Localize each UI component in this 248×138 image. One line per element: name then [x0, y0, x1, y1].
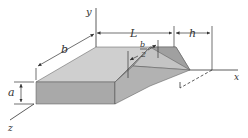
x-axis-label: x: [234, 72, 239, 82]
half-b-denominator: 2: [140, 50, 146, 59]
z-axis-line: [10, 104, 34, 120]
half-b-numerator: b: [140, 40, 145, 49]
a-label: a: [8, 86, 15, 99]
dimension-a: [14, 82, 34, 104]
wedge-side-face: [115, 66, 190, 104]
block-with-wedge-diagram: y x z b L h a b 2: [0, 0, 248, 138]
L-label: L: [129, 27, 137, 40]
b-label: b: [61, 43, 68, 56]
z-axis-label: z: [7, 123, 13, 133]
block-front-face: [36, 82, 115, 104]
dashed-projection-line: [180, 70, 212, 88]
y-axis-label: y: [85, 6, 92, 17]
solid-body: [36, 47, 190, 104]
h-label: h: [189, 27, 196, 40]
